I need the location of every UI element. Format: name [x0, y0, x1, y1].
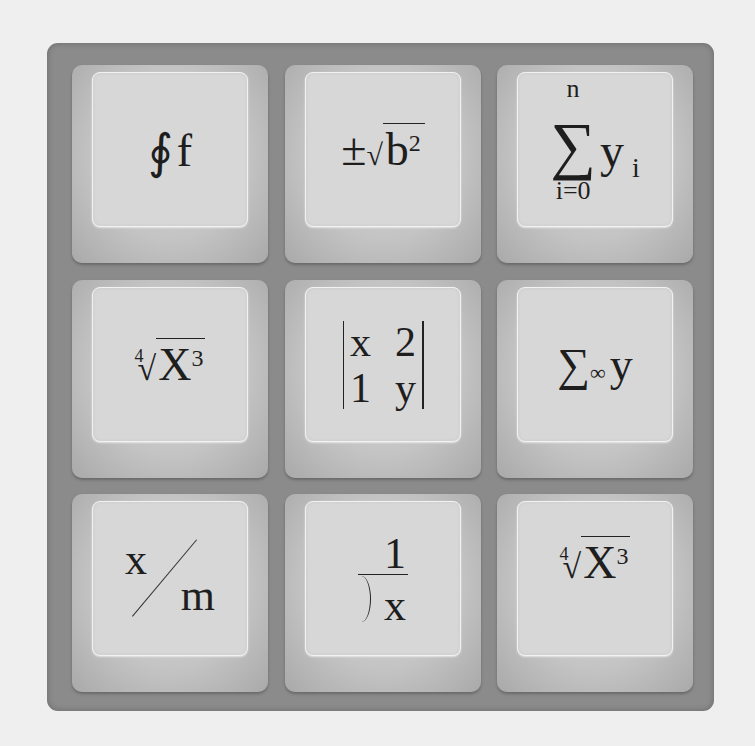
summand-subscript: i — [632, 152, 640, 183]
plus-minus-icon: ± — [341, 124, 366, 175]
lower-limit: i=0 — [556, 178, 591, 204]
sigma-icon: ∑ n i=0 — [550, 114, 596, 178]
key-face: ±√b2 — [305, 72, 461, 227]
plus-minus-sqrt-label: ±√b2 — [341, 127, 425, 173]
division-bar — [358, 574, 408, 576]
key-determinant[interactable]: x 2 1 y — [285, 280, 481, 478]
sigma-icon: ∑ — [557, 339, 590, 390]
upper-limit: n — [567, 76, 580, 102]
left-bar — [343, 321, 345, 409]
matrix-cell: 2 — [395, 321, 416, 363]
root-index: 4 — [560, 544, 569, 564]
base: b — [386, 124, 409, 175]
root-index: 4 — [135, 346, 144, 366]
contour-integral-icon: ∮ — [148, 125, 173, 178]
division-bracket-icon — [352, 576, 371, 622]
key-fourth-root[interactable]: 4√X3 — [72, 280, 268, 478]
matrix-cell: x — [350, 321, 371, 363]
key-fourth-root-2[interactable]: 4√X3 — [497, 494, 693, 692]
fourth-root-label: 4√X3 — [560, 540, 631, 586]
key-summation[interactable]: ∑ n i=0 yi — [497, 65, 693, 263]
exponent: 2 — [409, 130, 421, 156]
key-face: 4√X3 — [517, 501, 673, 656]
key-plus-minus-sqrt[interactable]: ±√b2 — [285, 65, 481, 263]
fraction-label: x m — [125, 534, 215, 624]
exponent: 3 — [616, 543, 628, 569]
key-face: ∑∞y — [517, 287, 673, 442]
radicand: X3 — [156, 338, 205, 390]
denominator: m — [181, 574, 215, 618]
key-contour-integral[interactable]: ∮f — [72, 65, 268, 263]
radicand: X3 — [581, 536, 630, 588]
sum-infinity-label: ∑∞y — [557, 342, 632, 388]
sigma-glyph: ∑ — [550, 110, 596, 181]
contour-integral-label: ∮f — [148, 126, 192, 174]
radical-icon: √ — [366, 138, 382, 171]
matrix-grid: x 2 1 y — [350, 321, 416, 409]
key-long-division[interactable]: 1 x — [285, 494, 481, 692]
key-face: ∑ n i=0 yi — [517, 72, 673, 227]
key-face: 4√X3 — [92, 287, 248, 442]
key-face: x 2 1 y — [305, 287, 461, 442]
infinity-icon: ∞ — [590, 360, 606, 385]
radicand: b2 — [383, 123, 425, 175]
integrand: f — [177, 125, 192, 176]
determinant-label: x 2 1 y — [337, 321, 430, 409]
summation-label: ∑ n i=0 yi — [550, 114, 639, 178]
base: X — [583, 537, 616, 588]
key-face: 1 x — [305, 501, 461, 656]
fourth-root-label: 4√X3 — [135, 342, 206, 388]
key-sum-infinity[interactable]: ∑∞y — [497, 280, 693, 478]
matrix-cell: y — [395, 367, 416, 409]
long-division-label: 1 x — [358, 524, 408, 634]
matrix-cell: 1 — [350, 367, 371, 409]
right-bar — [422, 321, 424, 409]
numerator: x — [125, 538, 147, 582]
base: X — [158, 339, 191, 390]
key-face: ∮f — [92, 72, 248, 227]
dividend: x — [384, 584, 406, 628]
summand: y — [600, 124, 624, 177]
exponent: 3 — [191, 345, 203, 371]
key-face: x m — [92, 501, 248, 656]
summand: y — [610, 339, 633, 390]
quotient: 1 — [384, 532, 406, 576]
key-fraction[interactable]: x m — [72, 494, 268, 692]
